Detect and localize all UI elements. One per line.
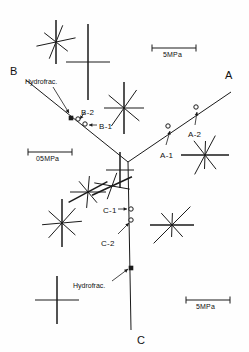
diagram-vector-layer bbox=[0, 0, 249, 352]
station-marker-B-2[interactable] bbox=[76, 117, 80, 121]
scale-top-right-label: 5MPa bbox=[163, 51, 182, 58]
figure-canvas: A-1A-2B-1B-2C-1C-2Hydrofrac.Hydrofrac.5M… bbox=[0, 0, 249, 352]
stress-ray bbox=[107, 173, 117, 199]
sym-7 bbox=[181, 136, 229, 175]
hydrofrac-marker-hydrofrac-b[interactable] bbox=[69, 116, 74, 121]
hydrofrac-label-hydrofrac-b: Hydrofrac. bbox=[25, 78, 57, 85]
hydrofrac-label-hydrofrac-c: Hydrofrac. bbox=[73, 282, 105, 289]
sym-8 bbox=[150, 207, 194, 244]
leader-arrow-A-2 bbox=[195, 112, 199, 116]
leader-arrow-A-1 bbox=[167, 131, 170, 135]
station-marker-C-2[interactable] bbox=[129, 218, 133, 222]
scale-mid-left-label: 05MPa bbox=[36, 155, 59, 162]
gallery-a bbox=[128, 92, 231, 162]
station-label-C-2: C-2 bbox=[101, 240, 115, 248]
hydrofrac-marker-hydrofrac-c[interactable] bbox=[129, 266, 134, 271]
gallery-c bbox=[128, 162, 131, 330]
branch-label-A: A bbox=[225, 70, 232, 81]
leader-hydrofrac-b bbox=[53, 87, 69, 113]
sym-2 bbox=[66, 24, 110, 100]
stress-ray bbox=[172, 213, 173, 237]
sym-10 bbox=[106, 152, 134, 188]
stress-ray bbox=[205, 141, 206, 169]
station-marker-C-1[interactable] bbox=[129, 207, 133, 211]
station-label-B-2: B-2 bbox=[81, 109, 94, 117]
station-marker-B-1[interactable] bbox=[83, 122, 87, 126]
station-label-B-1: B-1 bbox=[99, 123, 112, 131]
leader-arrow-C-1 bbox=[124, 207, 127, 211]
station-label-A-1: A-1 bbox=[160, 152, 173, 160]
sym-5 bbox=[42, 199, 82, 247]
station-label-C-1: C-1 bbox=[103, 207, 117, 215]
branch-label-C: C bbox=[137, 335, 145, 346]
station-marker-A-2[interactable] bbox=[194, 105, 198, 109]
branch-label-B: B bbox=[10, 66, 17, 77]
sym-4 bbox=[69, 176, 108, 208]
sym-1 bbox=[36, 20, 75, 64]
station-marker-A-1[interactable] bbox=[166, 124, 170, 128]
scale-bottom-right-label: 5MPa bbox=[196, 303, 215, 310]
leader-arrow-hydrofrac-c bbox=[124, 269, 128, 273]
leader-arrow-B-1 bbox=[89, 123, 92, 127]
station-label-A-2: A-2 bbox=[188, 131, 201, 139]
